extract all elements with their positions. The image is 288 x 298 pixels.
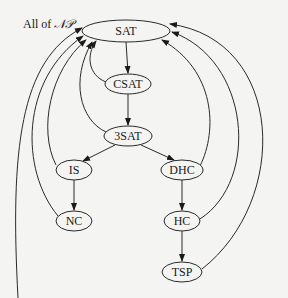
edge-tsp-sat [170, 24, 263, 269]
edge-nc-sat [32, 36, 83, 216]
node-label-nc: NC [66, 214, 83, 228]
edge-3sat-sat [80, 42, 106, 132]
edge-3sat-dhc [141, 145, 174, 160]
np-script-symbol: 𝒩𝒫 [54, 17, 77, 31]
node-label-is: IS [69, 163, 80, 177]
node-label-sat: SAT [115, 24, 137, 38]
diagram-svg: SAT CSAT 3SAT IS DHC NC HC TSP All of 𝒩𝒫 [0, 0, 288, 298]
node-label-3sat: 3SAT [114, 129, 142, 143]
edge-dhc-sat [162, 40, 210, 166]
node-label-tsp: TSP [172, 265, 193, 279]
np-reduction-diagram: SAT CSAT 3SAT IS DHC NC HC TSP All of 𝒩𝒫 [0, 0, 288, 298]
edge-csat-sat [90, 41, 106, 82]
all-of-np-label: All of 𝒩𝒫 [23, 17, 77, 31]
edge-sat-csat [126, 42, 128, 73]
node-label-hc: HC [174, 214, 191, 228]
edge-is-sat [48, 40, 86, 165]
all-of-np-prefix: All of [23, 17, 54, 31]
node-label-csat: CSAT [113, 77, 143, 91]
edge-3sat-is [83, 145, 115, 161]
node-label-dhc: DHC [169, 163, 194, 177]
